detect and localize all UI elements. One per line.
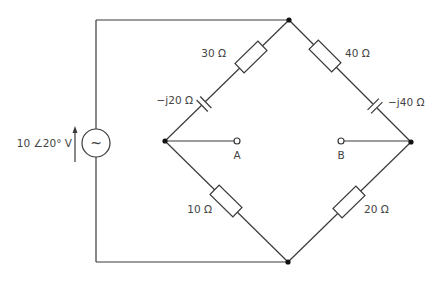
capacitor-j40-label: −j40 Ω [388, 96, 424, 108]
resistor-10-ohm [210, 185, 242, 217]
resistor-30-label: 30 Ω [201, 47, 226, 59]
resistor-10-label: 10 Ω [187, 203, 212, 215]
resistor-40-label: 40 Ω [345, 47, 370, 59]
capacitor-j20-label: −j20 Ω [157, 94, 193, 106]
node-right [408, 139, 413, 144]
resistor-20-ohm [333, 186, 365, 218]
sine-wave-icon: ~ [90, 135, 102, 151]
node-left [162, 138, 167, 143]
terminal-b [338, 138, 344, 144]
node-bottom [285, 259, 290, 264]
upper-left-branch-wire [165, 20, 289, 141]
resistor-30-ohm [235, 41, 267, 73]
terminal-b-label: B [337, 149, 344, 161]
terminal-a-label: A [233, 149, 241, 161]
source-label: 10 ∠20° V [17, 137, 73, 149]
voltage-direction-arrow-icon [73, 126, 78, 162]
capacitor-j20-ohm [196, 95, 213, 112]
ac-voltage-source: ~ [82, 129, 110, 157]
node-top [286, 17, 291, 22]
bridge-circuit-diagram: ~ 10 ∠20° V 30 Ω −j20 Ω 40 Ω −j40 Ω 10 Ω… [0, 0, 442, 282]
resistor-40-ohm [309, 40, 341, 72]
upper-right-branch-wire [289, 20, 411, 142]
terminal-a [234, 138, 240, 144]
resistor-20-label: 20 Ω [364, 203, 389, 215]
